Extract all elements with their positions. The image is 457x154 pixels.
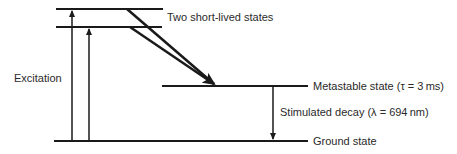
energy-level-diagram: Two short-lived states Excitation Metast… xyxy=(0,0,457,154)
ground-state-label: Ground state xyxy=(313,135,377,147)
upper-states-label: Two short-lived states xyxy=(167,11,274,23)
excitation-label: Excitation xyxy=(14,72,62,84)
stimulated-decay-label: Stimulated decay (λ = 694 nm) xyxy=(280,106,429,118)
decay-arrow-from-upper-2 xyxy=(130,27,214,84)
metastable-state-label: Metastable state (τ = 3 ms) xyxy=(313,80,444,92)
